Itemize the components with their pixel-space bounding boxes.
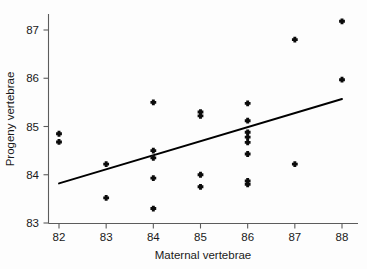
data-point [150, 206, 156, 212]
axes [49, 14, 359, 224]
x-axis-title: Maternal vertebrae [155, 249, 252, 261]
y-tick-label: 86 [26, 72, 39, 84]
x-tick-label: 86 [241, 231, 254, 243]
scatter-plot: 8384858687 82838485868788 Maternal verte… [0, 0, 367, 269]
data-point-marker [198, 113, 204, 119]
data-point [339, 77, 345, 83]
data-point-marker [245, 151, 251, 157]
y-axis-ticks [44, 30, 49, 223]
data-point-marker [150, 175, 156, 181]
data-point [56, 131, 62, 137]
data-point [150, 175, 156, 181]
data-point-marker [245, 118, 251, 124]
data-point-marker [339, 77, 345, 83]
data-point [339, 18, 345, 24]
data-point-marker [150, 99, 156, 105]
y-axis-title: Progeny vertebrae [4, 72, 16, 167]
x-tick-label: 85 [194, 231, 207, 243]
data-point-marker [150, 206, 156, 212]
data-point [150, 148, 156, 154]
data-point-marker [245, 100, 251, 106]
data-point-marker [56, 131, 62, 137]
x-tick-label: 87 [288, 231, 301, 243]
data-point [245, 100, 251, 106]
y-axis-tick-labels: 8384858687 [26, 24, 39, 229]
data-point-marker [292, 161, 298, 167]
data-point-marker [56, 139, 62, 145]
data-point-marker [339, 18, 345, 24]
data-point [198, 172, 204, 178]
data-point [245, 134, 251, 140]
data-point [103, 195, 109, 201]
x-tick-label: 82 [53, 231, 66, 243]
data-point-marker [292, 37, 298, 43]
data-point-marker [103, 161, 109, 167]
x-axis-tick-labels: 82838485868788 [53, 231, 349, 243]
data-point [56, 139, 62, 145]
data-point [198, 113, 204, 119]
data-point [103, 161, 109, 167]
x-tick-label: 88 [336, 231, 349, 243]
data-point [292, 161, 298, 167]
x-tick-label: 84 [147, 231, 160, 243]
data-point [245, 140, 251, 146]
data-point-marker [198, 172, 204, 178]
y-tick-label: 85 [26, 121, 39, 133]
data-point [245, 151, 251, 157]
data-point [150, 99, 156, 105]
y-tick-label: 84 [26, 169, 39, 181]
x-tick-label: 83 [100, 231, 113, 243]
data-point-marker [103, 195, 109, 201]
data-point [245, 118, 251, 124]
y-tick-label: 83 [26, 217, 39, 229]
x-axis-ticks [59, 224, 342, 229]
data-point-marker [245, 134, 251, 140]
data-point [198, 184, 204, 190]
y-tick-label: 87 [26, 24, 39, 36]
figure-container: 8384858687 82838485868788 Maternal verte… [0, 0, 367, 269]
data-point [292, 37, 298, 43]
data-point-marker [245, 140, 251, 146]
data-point-marker [198, 184, 204, 190]
data-points [56, 18, 345, 211]
data-point-marker [150, 148, 156, 154]
